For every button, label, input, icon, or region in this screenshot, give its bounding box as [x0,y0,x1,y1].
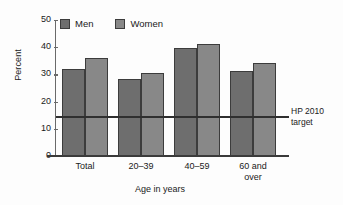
bar-chart: Percent 01020304050 HP 2010 target Total… [0,0,343,205]
legend-swatch-icon [115,19,125,29]
target-label-line2: target [291,117,324,128]
y-tick-label: 10 [41,123,51,133]
bar-group [230,20,276,156]
x-tick-label-line2: over [218,172,288,183]
hp-2010-target-label: HP 2010 target [291,106,324,127]
x-tick-label-line1: 60 and [218,161,288,172]
y-tick-label: 20 [41,96,51,106]
target-label-line1: HP 2010 [291,106,324,117]
legend-label: Men [75,18,93,29]
y-tick-label: 30 [41,68,51,78]
hp-2010-target-line [56,116,289,117]
bar-group [62,20,108,156]
x-axis-title: Age in years [0,184,320,194]
y-axis-title: Percent [13,25,23,105]
chart-legend: MenWomen [60,18,163,29]
bar-women [253,63,276,156]
bar-women [141,73,164,157]
bar-group [174,20,220,156]
x-tick-label: 60 andover [218,161,288,182]
legend-entry-women: Women [115,18,163,29]
bar-men [62,69,85,156]
legend-label: Women [130,18,163,29]
bar-women [197,44,220,156]
plot-area [56,20,278,156]
bar-men [174,48,197,156]
y-tick-label: 40 [41,41,51,51]
bar-men [230,71,253,156]
bar-group [118,20,164,156]
y-tick-label: 50 [41,14,51,24]
bar-women [85,58,108,156]
legend-swatch-icon [60,19,70,29]
legend-entry-men: Men [60,18,93,29]
